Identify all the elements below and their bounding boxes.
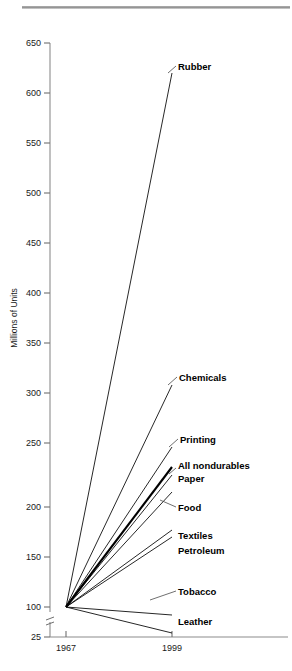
x-tick-label-1967: 1967	[56, 643, 76, 653]
y-tick-label-150: 150	[26, 552, 41, 562]
y-axis-title: Millions of Units	[9, 288, 19, 348]
leader-food	[160, 500, 176, 507]
series-line-all-nondurables	[66, 467, 172, 607]
series-label-tobacco: Tobacco	[178, 586, 217, 597]
series-line-food	[66, 492, 172, 607]
series-label-petroleum: Petroleum	[178, 545, 224, 556]
y-tick-label-450: 450	[26, 238, 41, 248]
series-label-all-nondurables: All nondurables	[178, 460, 250, 471]
series-line-paper	[66, 475, 172, 607]
figure-container: 650 600 550 500 450 400 350 300 250 200 …	[0, 0, 292, 671]
leader-printing	[169, 439, 178, 447]
series-label-textiles: Textiles	[178, 530, 213, 541]
y-tick-label-350: 350	[26, 338, 41, 348]
chart-plot-area: 650 600 550 500 450 400 350 300 250 200 …	[0, 0, 292, 671]
y-tick-label-650: 650	[26, 38, 41, 48]
y-tick-label-200: 200	[26, 502, 41, 512]
y-tick-label-250: 250	[26, 438, 41, 448]
series-labels: Rubber Chemicals Printing All nondurable…	[178, 61, 250, 627]
y-tick-label-100: 100	[26, 602, 41, 612]
label-leader-lines	[150, 66, 178, 600]
x-axis: 1967 1999	[50, 631, 288, 653]
series-label-rubber: Rubber	[178, 61, 212, 72]
series-line-chemicals	[66, 385, 172, 607]
series-label-printing: Printing	[180, 434, 216, 445]
y-tick-label-500: 500	[26, 188, 41, 198]
y-tick-label-600: 600	[26, 88, 41, 98]
y-tick-label-25: 25	[31, 632, 41, 642]
series-line-petroleum	[66, 537, 172, 607]
series-label-food: Food	[178, 502, 201, 513]
y-tick-label-300: 300	[26, 388, 41, 398]
series-lines	[66, 73, 172, 633]
y-tick-label-400: 400	[26, 288, 41, 298]
leader-rubber	[168, 66, 176, 73]
series-label-paper: Paper	[178, 473, 205, 484]
series-label-chemicals: Chemicals	[179, 372, 227, 383]
series-label-leather: Leather	[178, 616, 213, 627]
axis-break-icon	[46, 617, 54, 625]
leader-chemicals	[168, 377, 177, 385]
y-tick-label-550: 550	[26, 138, 41, 148]
line-chart-svg: 650 600 550 500 450 400 350 300 250 200 …	[0, 0, 292, 671]
y-axis: 650 600 550 500 450 400 350 300 250 200 …	[9, 38, 54, 642]
leader-tobacco	[150, 591, 176, 600]
x-tick-label-1999: 1999	[162, 643, 182, 653]
